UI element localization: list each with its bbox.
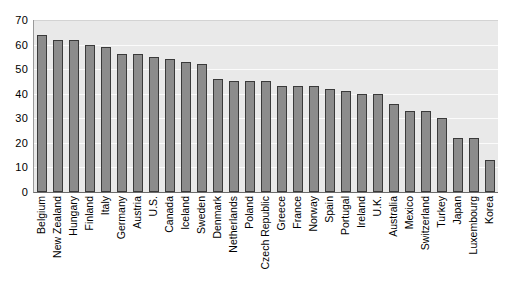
x-axis-tick: Austria: [129, 193, 145, 293]
x-axis-tick-label: U.S.: [148, 196, 159, 216]
x-axis-tick: France: [289, 193, 305, 293]
y-axis-tick-label: 40: [15, 88, 28, 100]
x-axis-tick-label: Belgium: [36, 196, 47, 234]
bar: [245, 81, 255, 192]
x-axis-tick-label: U.K.: [372, 196, 383, 216]
x-axis-tick-label: France: [292, 196, 303, 229]
x-axis-tick-label: Austria: [132, 196, 143, 229]
x-axis-tick-label: Norway: [308, 196, 319, 232]
x-axis-tick: Turkey: [433, 193, 449, 293]
x-axis-tick: New Zealand: [49, 193, 65, 293]
x-axis-tick-label: Germany: [116, 196, 127, 239]
x-axis-tick-label: Australia: [388, 196, 399, 237]
bar: [373, 94, 383, 192]
x-axis-tick-label: Korea: [484, 196, 495, 224]
x-axis-tick-label: Switzerland: [420, 196, 431, 250]
x-axis-tick-label: Japan: [452, 196, 463, 225]
bar: [37, 35, 47, 192]
x-axis-tick-label: Italy: [100, 196, 111, 215]
bar: [181, 62, 191, 192]
x-axis-tick-label: Iceland: [180, 196, 191, 230]
bar: [53, 40, 63, 192]
x-axis-tick-label: Luxembourg: [468, 196, 479, 254]
y-axis: 010203040506070: [0, 0, 33, 295]
x-axis-tick-label: Poland: [244, 196, 255, 229]
x-axis-tick: Poland: [241, 193, 257, 293]
x-axis-tick-label: Czech Republic: [260, 196, 271, 270]
bar: [69, 40, 79, 192]
y-axis-tick-label: 60: [15, 39, 28, 51]
x-axis-tick: Spain: [321, 193, 337, 293]
x-axis-tick: Korea: [481, 193, 497, 293]
bar: [405, 111, 415, 192]
x-axis-tick: Luxembourg: [465, 193, 481, 293]
y-axis-tick-label: 70: [15, 14, 28, 26]
bar: [277, 86, 287, 192]
y-axis-tick-label: 20: [15, 137, 28, 149]
x-axis-tick: U.S.: [145, 193, 161, 293]
x-axis-tick: Canada: [161, 193, 177, 293]
x-axis-tick: Germany: [113, 193, 129, 293]
x-axis-tick: U.K.: [369, 193, 385, 293]
x-axis-tick: Netherlands: [225, 193, 241, 293]
x-axis-tick-label: Spain: [324, 196, 335, 223]
x-axis-tick: Switzerland: [417, 193, 433, 293]
x-axis-tick: Iceland: [177, 193, 193, 293]
x-axis-tick: Czech Republic: [257, 193, 273, 293]
x-axis-tick-label: Sweden: [196, 196, 207, 234]
y-axis-tick-label: 50: [15, 63, 28, 75]
bar: [469, 138, 479, 192]
bar: [229, 81, 239, 192]
x-axis-tick-label: Canada: [164, 196, 175, 233]
x-axis: BelgiumNew ZealandHungaryFinlandItalyGer…: [33, 193, 497, 295]
x-axis-tick: Finland: [81, 193, 97, 293]
bar: [325, 89, 335, 192]
x-axis-tick: Sweden: [193, 193, 209, 293]
x-axis-tick: Denmark: [209, 193, 225, 293]
x-axis-tick: Belgium: [33, 193, 49, 293]
bar: [357, 94, 367, 192]
bar: [117, 54, 127, 192]
bars-layer: [34, 20, 498, 192]
x-axis-tick: Mexico: [401, 193, 417, 293]
bar: [453, 138, 463, 192]
bar: [341, 91, 351, 192]
x-axis-tick-label: Finland: [84, 196, 95, 230]
y-axis-tick-label: 10: [15, 161, 28, 173]
bar: [133, 54, 143, 192]
bar: [261, 81, 271, 192]
y-axis-tick-label: 30: [15, 112, 28, 124]
bar: [293, 86, 303, 192]
y-axis-tick-label: 0: [22, 186, 28, 198]
x-axis-tick-label: Hungary: [68, 196, 79, 236]
bar: [485, 160, 495, 192]
bar: [309, 86, 319, 192]
bar: [197, 64, 207, 192]
bar: [421, 111, 431, 192]
x-axis-tick-label: Denmark: [212, 196, 223, 239]
bar: [213, 79, 223, 192]
x-axis-tick: Portugal: [337, 193, 353, 293]
bar: [165, 59, 175, 192]
x-axis-tick-label: Netherlands: [228, 196, 239, 253]
x-axis-tick-label: Greece: [276, 196, 287, 230]
bar: [85, 45, 95, 192]
plot-area: [33, 20, 498, 193]
bar: [437, 118, 447, 192]
bar-chart: 010203040506070 BelgiumNew ZealandHungar…: [0, 0, 517, 295]
x-axis-tick-label: New Zealand: [52, 196, 63, 258]
x-axis-tick: Hungary: [65, 193, 81, 293]
x-axis-tick: Greece: [273, 193, 289, 293]
x-axis-tick: Norway: [305, 193, 321, 293]
x-axis-tick-label: Portugal: [340, 196, 351, 235]
x-axis-tick-label: Turkey: [436, 196, 447, 228]
bar: [389, 104, 399, 192]
x-axis-tick-label: Ireland: [356, 196, 367, 228]
bar: [149, 57, 159, 192]
x-axis-tick: Ireland: [353, 193, 369, 293]
x-axis-tick: Japan: [449, 193, 465, 293]
x-axis-tick: Italy: [97, 193, 113, 293]
x-axis-tick: Australia: [385, 193, 401, 293]
bar: [101, 47, 111, 192]
x-axis-tick-label: Mexico: [404, 196, 415, 229]
